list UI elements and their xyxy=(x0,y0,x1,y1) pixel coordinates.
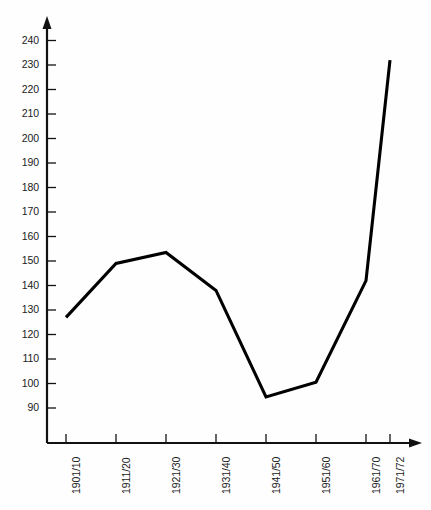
x-tick-label: 1941/50 xyxy=(270,457,282,494)
y-axis-group xyxy=(43,16,52,443)
y-tick-label: 100 xyxy=(5,377,39,389)
y-tick-label: 130 xyxy=(5,303,39,315)
x-tick-label: 1971/72 xyxy=(394,457,406,494)
y-axis-arrow xyxy=(43,16,52,29)
y-tick-label: 160 xyxy=(5,230,39,242)
y-tick-label: 150 xyxy=(5,254,39,266)
x-tick-label: 1961/70 xyxy=(370,457,382,494)
y-tick-label: 110 xyxy=(5,352,39,364)
y-tick-label: 90 xyxy=(5,401,39,413)
y-tick-label: 180 xyxy=(5,181,39,193)
x-tick-marks xyxy=(66,434,390,443)
x-tick-label: 1911/20 xyxy=(120,458,132,494)
y-tick-label: 220 xyxy=(5,83,39,95)
y-tick-label: 200 xyxy=(5,132,39,144)
y-tick-label: 240 xyxy=(5,34,39,46)
line-chart-figure: 9010011012013014015016017018019020021022… xyxy=(0,0,431,510)
y-tick-label: 120 xyxy=(5,328,39,340)
x-tick-label: 1901/10 xyxy=(70,457,82,494)
y-tick-label: 170 xyxy=(5,205,39,217)
y-tick-label: 230 xyxy=(5,58,39,70)
x-tick-label: 1931/40 xyxy=(220,457,232,494)
x-tick-label: 1921/30 xyxy=(170,457,182,494)
y-tick-label: 210 xyxy=(5,107,39,119)
x-tick-label: 1951/60 xyxy=(320,457,332,494)
data-series-line xyxy=(66,60,390,397)
y-tick-label: 190 xyxy=(5,156,39,168)
y-tick-label: 140 xyxy=(5,279,39,291)
chart-plot-area xyxy=(0,0,431,510)
y-tick-marks xyxy=(47,41,56,409)
x-axis-arrow xyxy=(409,438,422,447)
